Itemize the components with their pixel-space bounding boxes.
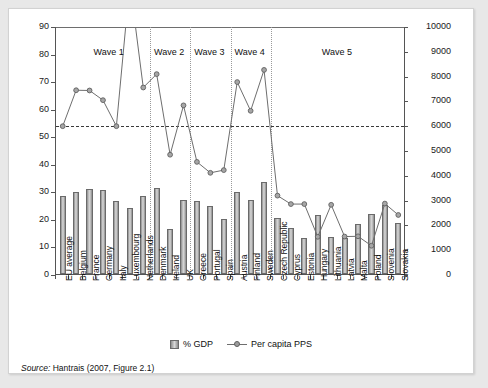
x-label-portugal: Portugal [213, 249, 222, 281]
source-caption: Source: Hantrais (2007, Figure 2.1) [21, 363, 154, 373]
point-czech-republic: Czech Republic: 3200 PPS [275, 193, 280, 198]
left-axis-tick-50: 50 [25, 132, 49, 141]
point-italy: Italy: 6000 PPS [114, 124, 119, 129]
x-label-eu-average: EU average [65, 236, 74, 281]
left-axis-tickmark [51, 165, 55, 166]
left-axis-tickmark [51, 247, 55, 248]
point-portugal: Portugal: 4120 PPS [208, 170, 213, 175]
plot-area: EU average: 6000 PPSBelgium: 7450 PPSFra… [55, 27, 404, 275]
x-axis-tickmark [55, 275, 56, 279]
point-malta: Malta: 1560 PPS [356, 234, 361, 239]
right-axis-tick-2000: 2000 [417, 220, 451, 229]
point-finland: Finland: 6620 PPS [248, 108, 253, 113]
x-label-austria: Austria [240, 255, 249, 281]
x-label-lithuania: Lithuania [334, 246, 343, 281]
left-axis-tick-60: 60 [25, 105, 49, 114]
point-austria: Austria: 7780 PPS [235, 80, 240, 85]
point-spain: Spain: 4230 PPS [221, 168, 226, 173]
point-greece: Greece: 4560 PPS [195, 160, 200, 165]
point-ireland: Ireland: 4850 PPS [168, 152, 173, 157]
left-axis-tickmark [51, 192, 55, 193]
point-uk: UK: 6840 PPS [181, 103, 186, 108]
x-label-italy: Italy [119, 265, 128, 281]
left-axis-tickmark [51, 220, 55, 221]
x-label-slovakia: Slovakia [401, 249, 410, 281]
wave-label-4: Wave 4 [220, 47, 280, 57]
legend-label-gdp: % GDP [183, 339, 213, 349]
x-label-greece: Greece [199, 253, 208, 281]
x-label-poland: Poland [374, 255, 383, 281]
legend-item-gdp: % GDP [170, 339, 213, 349]
point-sweden: Sweden: 8270 PPS [262, 68, 267, 73]
source-prefix: Source: [21, 363, 50, 373]
point-poland: Poland: 1180 PPS [369, 243, 374, 248]
x-label-france: France [92, 255, 101, 281]
point-cyprus: Cyprus: 2860 PPS [289, 202, 294, 207]
x-label-malta: Malta [360, 260, 369, 281]
x-label-slovenia: Slovenia [387, 248, 396, 281]
x-label-latvia: Latvia [347, 258, 356, 281]
point-netherlands: Netherlands: 7560 PPS [141, 85, 146, 90]
point-slovakia: Slovakia: 2420 PPS [396, 213, 401, 218]
x-label-spain: Spain [226, 259, 235, 281]
x-label-sweden: Sweden [266, 250, 275, 281]
x-label-cyprus: Cyprus [293, 254, 302, 281]
x-label-netherlands: Netherlands [146, 235, 155, 281]
right-axis-tick-5000: 5000 [417, 146, 451, 155]
right-axis-tick-0: 0 [417, 270, 451, 279]
left-axis-tick-10: 10 [25, 242, 49, 251]
x-label-belgium: Belgium [79, 250, 88, 281]
legend-label-per-capita-pps: Per capita PPS [251, 339, 312, 349]
legend-item-per-capita-pps: Per capita PPS [227, 339, 312, 349]
source-text: Hantrais (2007, Figure 2.1) [53, 363, 155, 373]
left-axis-tickmark [51, 27, 55, 28]
right-axis-tickmark [404, 52, 408, 53]
left-axis-tick-80: 80 [25, 50, 49, 59]
x-label-hungary: Hungary [320, 249, 329, 281]
right-axis-tick-3000: 3000 [417, 196, 451, 205]
left-axis-tick-70: 70 [25, 77, 49, 86]
x-label-luxembourg: Luxembourg [132, 234, 141, 281]
point-eu-average: EU average: 6000 PPS [60, 124, 65, 129]
line-series-per-capita-pps: EU average: 6000 PPSBelgium: 7450 PPSFra… [56, 27, 405, 275]
point-lithuania: Lithuania: 2830 PPS [329, 202, 334, 207]
right-axis-tickmark [404, 126, 408, 127]
chart-legend: % GDP Per capita PPS [9, 339, 473, 349]
x-label-germany: Germany [105, 246, 114, 281]
point-hungary: Hungary: 1540 PPS [315, 234, 320, 239]
x-label-czech-republic: Czech Republic [280, 221, 289, 281]
left-axis-tick-30: 30 [25, 187, 49, 196]
figure-page: EU average: 6000 PPSBelgium: 7450 PPSFra… [0, 0, 488, 388]
right-axis-tickmark [404, 225, 408, 226]
bar-swatch-icon [170, 340, 179, 349]
wave-label-1: Wave 1 [79, 47, 139, 57]
per-capita-pps-line [63, 0, 399, 246]
right-axis-tick-8000: 8000 [417, 72, 451, 81]
left-axis-tick-90: 90 [25, 22, 49, 31]
left-axis-tickmark [51, 137, 55, 138]
right-axis-tickmark [404, 151, 408, 152]
figure-frame: EU average: 6000 PPSBelgium: 7450 PPSFra… [8, 8, 474, 374]
right-axis-tick-4000: 4000 [417, 171, 451, 180]
point-slovenia: Slovenia: 2880 PPS [382, 201, 387, 206]
point-france: France: 7440 PPS [87, 88, 92, 93]
point-latvia: Latvia: 1550 PPS [342, 234, 347, 239]
right-axis-tickmark [404, 101, 408, 102]
line-marker-icon [227, 340, 247, 349]
x-label-finland: Finland [253, 253, 262, 281]
wave-label-5: Wave 5 [307, 47, 367, 57]
x-label-ireland: Ireland [172, 255, 181, 281]
left-axis-tick-0: 0 [25, 270, 49, 279]
point-germany: Germany: 7050 PPS [101, 98, 106, 103]
x-label-denmark: Denmark [159, 247, 168, 281]
x-label-uk: UK [186, 269, 195, 281]
right-axis-tickmark [404, 27, 408, 28]
left-axis-tickmark [51, 110, 55, 111]
x-label-estonia: Estonia [307, 253, 316, 281]
point-belgium: Belgium: 7450 PPS [74, 88, 79, 93]
right-axis-tick-9000: 9000 [417, 47, 451, 56]
right-axis-tick-1000: 1000 [417, 245, 451, 254]
right-axis-tickmark [404, 176, 408, 177]
right-axis-tick-10000: 10000 [417, 22, 451, 31]
left-axis-tickmark [51, 55, 55, 56]
